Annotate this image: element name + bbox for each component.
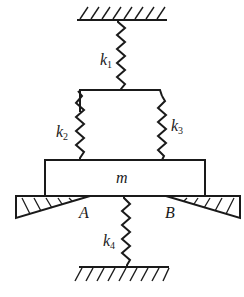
spring-mass-diagram bbox=[0, 0, 244, 297]
label-A: A bbox=[79, 205, 89, 221]
support-B bbox=[166, 196, 240, 218]
label-mass: m bbox=[116, 170, 128, 186]
spring-k3 bbox=[158, 96, 166, 160]
label-B: B bbox=[165, 205, 175, 221]
label-k1: k1 bbox=[100, 52, 112, 70]
spring-k4 bbox=[122, 196, 130, 267]
spring-k1 bbox=[117, 20, 125, 90]
label-k4: k4 bbox=[103, 233, 115, 251]
label-k3: k3 bbox=[171, 118, 183, 136]
bottom-floor bbox=[75, 267, 169, 281]
label-k2: k2 bbox=[56, 124, 68, 142]
top-ceiling bbox=[77, 7, 167, 20]
connecting-bar bbox=[80, 90, 162, 112]
